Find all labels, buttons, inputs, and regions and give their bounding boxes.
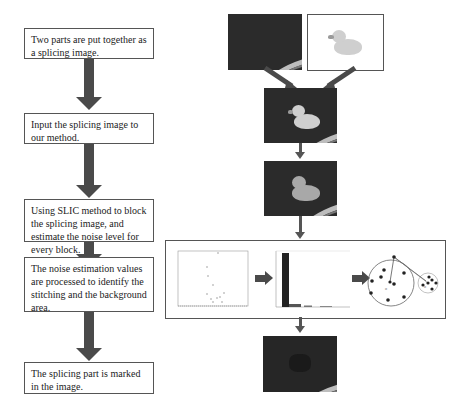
flow-arrow-1 [84,59,94,98]
step-4-box: The noise estimation values are processe… [24,257,154,312]
step-4-text: The noise estimation values are processe… [31,263,147,313]
flow-arrow-4 [84,312,94,349]
noise-scatter-plot [176,249,251,309]
duck-figure [328,29,368,59]
svg-text:o: o [385,286,387,291]
analysis-panel: o o [165,240,446,319]
step-1-text: Two parts are put together as a splicing… [31,34,147,58]
arrow-scatter-to-histogram [255,275,265,282]
arrow-histogram-to-cluster [352,275,362,282]
background-text-bleed [175,4,177,16]
spliced-duck-pool-image [264,88,337,143]
step-2-box: Input the splicing image to our method. [24,113,154,144]
noise-histogram [272,249,352,311]
step-5-text: The splicing part is marked in the image… [31,368,140,392]
step-5-box: The splicing part is marked in the image… [24,362,154,394]
slic-blocked-image [264,161,337,216]
marked-region [289,354,311,372]
rubber-duck-image [307,14,384,71]
step-1-box: Two parts are put together as a splicing… [24,28,154,59]
arrow-to-slic [299,143,302,153]
step-2-text: Input the splicing image to our method. [31,119,138,143]
step-3-box: Using SLIC method to block the splicing … [24,199,154,242]
arrow-to-result [299,317,302,327]
svg-text:o: o [424,284,426,289]
flow-arrow-3 [84,242,94,255]
marked-result-image [263,336,337,392]
flow-arrow-2 [84,144,94,186]
cluster-diagram: o o [366,245,444,315]
pool-background-image [228,14,302,70]
arrow-to-analysis [299,216,302,233]
